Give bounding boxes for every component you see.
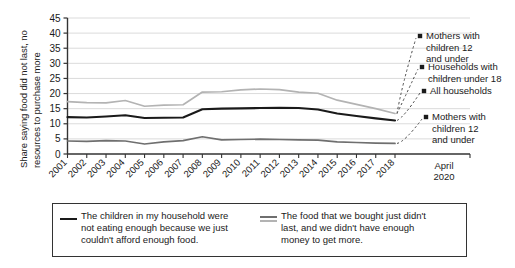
x-axis-tick-label: 2013	[277, 157, 300, 180]
legend-entry-1-text: The children in my household were not ea…	[81, 210, 228, 246]
x-axis-tick-label: 2006	[143, 157, 166, 180]
y-axis-tick-label: 15	[49, 103, 61, 114]
annotation-label-line: children 12	[432, 123, 478, 134]
annotation-label-line: Mothers with	[426, 30, 480, 41]
series-line	[68, 108, 396, 121]
x-axis-tick-label: 2018	[374, 157, 397, 180]
legend-marker-dark-line	[60, 215, 77, 224]
x-axis-final-label: April2020	[433, 160, 454, 182]
chart-figure: Share saying food did not last, no resou…	[0, 0, 515, 268]
annotation-marker	[420, 65, 424, 69]
annotation-labels: Mothers withchildren 12and underHousehol…	[426, 30, 501, 145]
legend-entry-2-line-2: last, and we didn't have enough	[281, 222, 426, 234]
x-axis-tick-label: 2011	[239, 157, 261, 179]
y-axis-tick-label: 25	[49, 73, 61, 84]
x-axis-tick-label: 2004	[104, 157, 127, 180]
y-axis-tick-label: 5	[55, 133, 61, 144]
x-axis-tick-label: 2005	[123, 157, 146, 180]
y-axis-tick-label: 35	[49, 43, 61, 54]
y-axis-tick-label: 10	[49, 118, 61, 129]
x-axis-tick-label: 2016	[335, 157, 358, 180]
y-axis-tick-labels: 051015202530354045	[49, 13, 61, 160]
annotation-marker	[418, 34, 422, 38]
x-axis-tick-label: 2002	[65, 157, 88, 180]
x-axis-tick-label: 2001	[46, 157, 69, 180]
y-axis-tick-label: 20	[49, 88, 61, 99]
chart-legend: The children in my household were not ea…	[52, 203, 467, 257]
gridlines	[68, 18, 471, 139]
annotation-label-line: children 12	[426, 42, 472, 53]
legend-entry-1-line-1: The children in my household were	[81, 210, 228, 222]
x-axis-tick-label: 2010	[220, 157, 243, 180]
y-axis-tick-label: 45	[49, 13, 61, 24]
x-axis-tick-labels: 2001200220032004200520062007200820092010…	[46, 157, 396, 180]
y-axis-tick-label: 40	[49, 28, 61, 39]
x-axis-tick-label: 2007	[162, 157, 185, 180]
data-series-lines	[68, 89, 396, 144]
x-axis-tick-label: 2009	[200, 157, 223, 180]
legend-entry-1: The children in my household were not ea…	[60, 210, 255, 246]
x-axis-tick-label: 2012	[258, 157, 281, 180]
legend-entry-2-text: The food that we bought just didn't last…	[281, 210, 426, 246]
x-axis-tick-label: 2017	[354, 157, 377, 180]
leader-line	[397, 69, 418, 114]
annotation-label-line: children under 18	[428, 73, 501, 84]
legend-marker-double-gray-line	[260, 215, 277, 224]
x-axis-final-label-line-2: 2020	[433, 171, 454, 182]
legend-entry-2-line-1: The food that we bought just didn't	[281, 210, 426, 222]
leader-line	[397, 93, 420, 120]
x-axis-tick-label: 2003	[85, 157, 108, 180]
annotation-label-line: All households	[430, 85, 492, 96]
annotation-label-line: Households with	[428, 61, 498, 72]
annotation-label-line: and under	[432, 134, 475, 145]
legend-entry-2-line-3: money to get more.	[281, 234, 426, 246]
legend-entry-2: The food that we bought just didn't last…	[260, 210, 460, 246]
series-line	[68, 137, 396, 144]
x-axis-tick-label: 2015	[316, 157, 339, 180]
legend-entry-1-line-3: couldn't afford enough food.	[81, 234, 228, 246]
annotation-label-line: Mothers with	[432, 111, 486, 122]
leader-line	[397, 119, 422, 143]
annotation-marker	[424, 115, 428, 119]
legend-entry-1-line-2: not eating enough because we just	[81, 222, 228, 234]
x-axis-tick-label: 2008	[181, 157, 204, 180]
x-axis-tick-label: 2014	[297, 157, 320, 180]
annotation-marker	[422, 89, 426, 93]
series-line	[68, 89, 396, 113]
y-axis-tick-label: 30	[49, 58, 61, 69]
x-axis-final-label-line-1: April	[434, 160, 453, 171]
annotation-leader-lines	[397, 38, 422, 143]
